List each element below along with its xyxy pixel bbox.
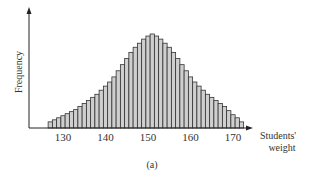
histogram-bar [61, 116, 65, 128]
histogram-bar [129, 52, 133, 128]
histogram-bar [133, 47, 137, 128]
histogram-bar [120, 65, 124, 128]
histogram-bar [171, 52, 175, 128]
histogram-bar [99, 90, 103, 128]
histogram-bar [235, 118, 239, 128]
histogram-bars [48, 34, 244, 128]
histogram-bar [103, 86, 107, 128]
histogram-bar [82, 103, 86, 128]
histogram-bar [150, 34, 154, 128]
histogram-bar [91, 97, 95, 128]
histogram-bar [112, 77, 116, 128]
histogram-chart: Frequency 130140150160170 Students' weig… [0, 0, 310, 177]
y-axis-label: Frequency [13, 51, 24, 93]
histogram-bar [48, 122, 52, 128]
histogram-bar [239, 122, 243, 128]
histogram-bar [95, 94, 99, 128]
histogram-bar [57, 118, 61, 128]
histogram-bar [142, 39, 146, 128]
histogram-bar [201, 90, 205, 128]
histogram-bar [231, 115, 235, 128]
x-tick-label: 150 [140, 131, 157, 143]
histogram-bar [86, 100, 90, 128]
histogram-bar [188, 77, 192, 128]
histogram-bar [125, 59, 129, 128]
histogram-bar [65, 114, 69, 128]
x-tick-label: 160 [182, 131, 199, 143]
histogram-bar [108, 82, 112, 128]
x-tick-label: 170 [225, 131, 242, 143]
histogram-bar [154, 36, 158, 128]
histogram-bar [159, 39, 163, 128]
y-axis-arrow-icon [27, 7, 32, 14]
x-tick-labels: 130140150160170 [55, 131, 242, 143]
histogram-bar [197, 86, 201, 128]
histogram-bar [52, 120, 56, 128]
histogram-bar [205, 94, 209, 128]
histogram-bar [176, 59, 180, 128]
histogram-bar [69, 112, 73, 128]
histogram-bar [146, 36, 150, 128]
histogram-bar [184, 71, 188, 128]
histogram-bar [137, 43, 141, 128]
figure-caption: (a) [146, 159, 157, 171]
histogram-bar [193, 82, 197, 128]
x-tick-label: 130 [55, 131, 72, 143]
histogram-bar [167, 47, 171, 128]
histogram-bar [116, 71, 120, 128]
histogram-bar [163, 43, 167, 128]
histogram-bar [78, 107, 82, 128]
histogram-bar [214, 100, 218, 128]
x-axis-label-line1: Students' [260, 130, 296, 141]
x-axis-arrow-icon [246, 126, 253, 131]
histogram-bar [222, 107, 226, 128]
histogram-bar [218, 103, 222, 128]
histogram-bar [74, 110, 78, 128]
x-axis-label-line2: weight [268, 142, 295, 153]
histogram-bar [210, 97, 214, 128]
histogram-bar [227, 111, 231, 128]
x-tick-label: 140 [97, 131, 114, 143]
histogram-bar [180, 65, 184, 128]
